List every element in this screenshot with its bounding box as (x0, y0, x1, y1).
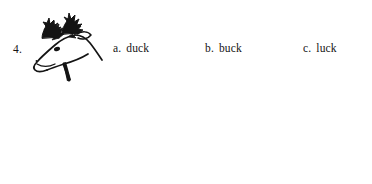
answer-options: a.duck b.buck c.luck (0, 38, 372, 58)
option-letter: a. (113, 42, 121, 54)
option-letter: b. (205, 42, 214, 54)
option-word: duck (126, 42, 149, 54)
option-b[interactable]: b.buck (205, 38, 242, 58)
option-letter: c. (303, 42, 311, 54)
question-row: 5. (0, 92, 372, 184)
worksheet-page: 4. (0, 0, 372, 184)
question-row: 4. (0, 0, 372, 92)
option-a[interactable]: a.duck (113, 38, 149, 58)
option-c[interactable]: c.luck (303, 38, 337, 58)
option-word: luck (316, 42, 336, 54)
option-word: buck (219, 42, 242, 54)
